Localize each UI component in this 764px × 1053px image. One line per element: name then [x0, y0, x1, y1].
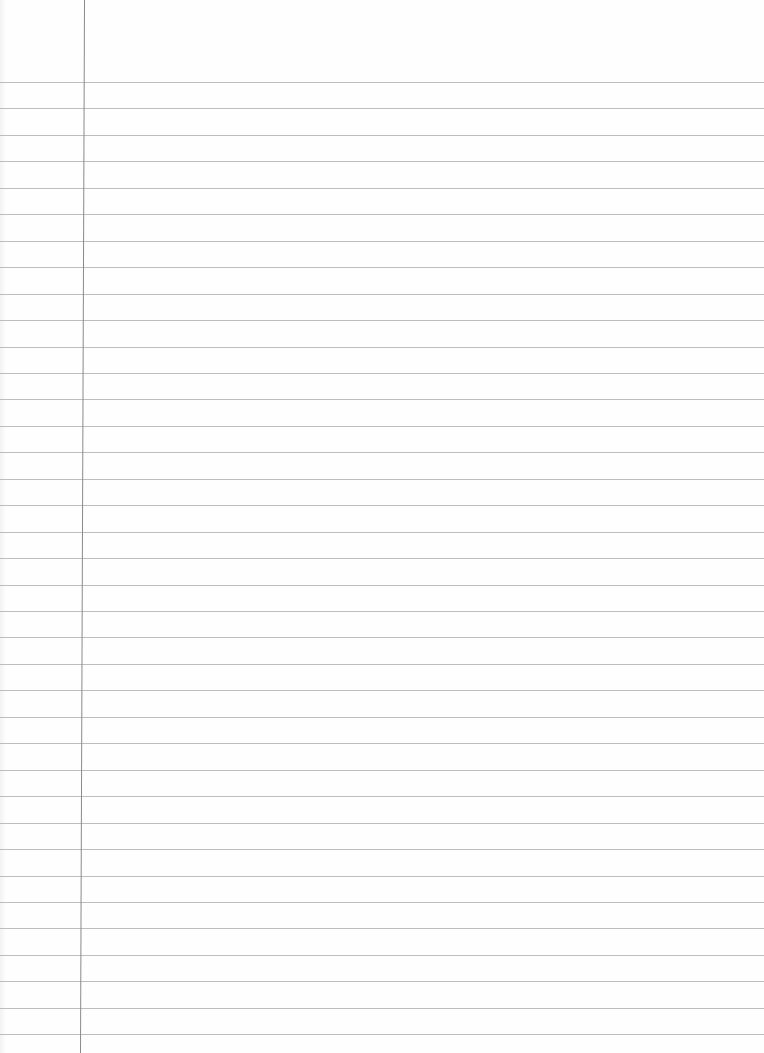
- ruled-line: [0, 611, 764, 612]
- ruled-line: [0, 690, 764, 691]
- ruled-line: [0, 347, 764, 348]
- ruled-line: [0, 452, 764, 453]
- ruled-line: [0, 1034, 764, 1035]
- ruled-line: [0, 876, 764, 877]
- ruled-line: [0, 955, 764, 956]
- ruled-line: [0, 399, 764, 400]
- ruled-line: [0, 717, 764, 718]
- ruled-line: [0, 637, 764, 638]
- ruled-line: [0, 267, 764, 268]
- ruled-line: [0, 426, 764, 427]
- ruled-line: [0, 294, 764, 295]
- ruled-line: [0, 108, 764, 109]
- ruled-line: [0, 585, 764, 586]
- ruled-line: [0, 664, 764, 665]
- ruled-line: [0, 823, 764, 824]
- ruled-line: [0, 902, 764, 903]
- ruled-line: [0, 558, 764, 559]
- ruled-line: [0, 320, 764, 321]
- ruled-line: [0, 1008, 764, 1009]
- ruled-line: [0, 241, 764, 242]
- ruled-line: [0, 532, 764, 533]
- ruled-line: [0, 214, 764, 215]
- ruled-line: [0, 796, 764, 797]
- ruled-line: [0, 188, 764, 189]
- ruled-line: [0, 743, 764, 744]
- ruled-line: [0, 373, 764, 374]
- ruled-line: [0, 770, 764, 771]
- margin-line: [80, 0, 85, 1053]
- paper-edge-shadow: [0, 0, 6, 1053]
- ruled-line: [0, 161, 764, 162]
- ruled-line: [0, 82, 764, 83]
- ruled-line: [0, 928, 764, 929]
- ruled-line: [0, 981, 764, 982]
- ruled-line: [0, 505, 764, 506]
- ruled-line: [0, 479, 764, 480]
- lined-paper-sheet: [0, 0, 764, 1053]
- ruled-line: [0, 849, 764, 850]
- ruled-line: [0, 135, 764, 136]
